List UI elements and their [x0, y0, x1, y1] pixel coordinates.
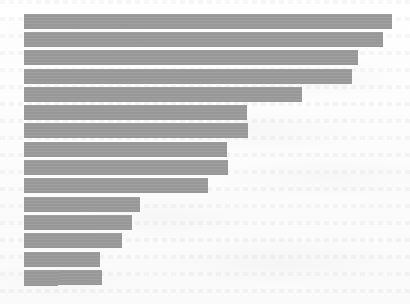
bar-chart-figure [0, 0, 410, 304]
bar [24, 105, 247, 120]
bar [24, 14, 392, 29]
bar [24, 197, 140, 212]
bar [24, 123, 248, 138]
bar [24, 160, 228, 175]
bar [24, 252, 100, 267]
bar [24, 50, 358, 65]
bar [24, 271, 58, 286]
bar [24, 215, 132, 230]
bar [24, 32, 383, 47]
bar [24, 178, 208, 193]
plot-area [0, 0, 410, 304]
bar [24, 69, 352, 84]
bar [24, 233, 122, 248]
bar [24, 87, 302, 102]
bar [24, 142, 227, 157]
